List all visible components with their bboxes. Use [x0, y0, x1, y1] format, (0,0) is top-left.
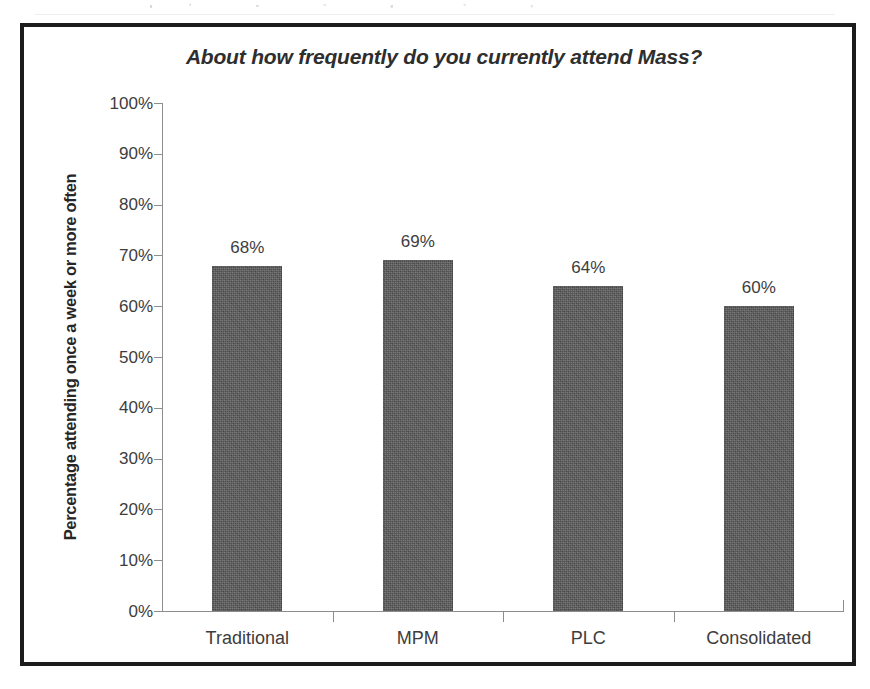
y-tick-label: 80% [119, 195, 153, 215]
bar-value-label-consolidated: 60% [714, 278, 804, 298]
y-tick-label: 60% [119, 297, 153, 317]
y-tick-mark [154, 205, 162, 206]
y-tick-mark [154, 357, 162, 358]
x-axis-category-label-mpm: MPM [328, 628, 508, 649]
y-tick-label: 70% [119, 246, 153, 266]
y-tick-mark [154, 103, 162, 104]
x-axis-category-label-consolidated: Consolidated [669, 628, 849, 649]
bar-consolidated[interactable] [724, 306, 794, 611]
y-tick-label: 10% [119, 551, 153, 571]
y-tick-mark [154, 255, 162, 256]
x-axis-category-label-plc: PLC [498, 628, 678, 649]
x-axis-end-tick [843, 600, 844, 611]
y-tick-mark [154, 611, 162, 612]
bar-value-label-mpm: 69% [373, 232, 463, 252]
y-tick-label: 50% [119, 348, 153, 368]
y-axis-tick-90: 90% [162, 154, 163, 155]
y-axis-title-container: Percentage attending once a week or more… [42, 107, 98, 607]
x-axis-separator-tick [503, 611, 504, 622]
x-axis-separator-tick [333, 611, 334, 622]
y-tick-mark [154, 408, 162, 409]
y-tick-label: 90% [119, 144, 153, 164]
y-axis-title: Percentage attending once a week or more… [59, 111, 81, 603]
bar-value-label-plc: 64% [543, 258, 633, 278]
chart-title: About how frequently do you currently at… [164, 45, 724, 69]
y-axis-tick-30: 30% [162, 459, 163, 460]
y-axis-tick-0: 0% [162, 611, 163, 612]
y-axis-tick-20: 20% [162, 509, 163, 510]
plot-area: 100% 90% 80% 70% 60% 50% 40% 30% [162, 103, 844, 611]
y-tick-label: 20% [119, 500, 153, 520]
y-axis-tick-80: 80% [162, 205, 163, 206]
y-tick-mark [154, 306, 162, 307]
y-tick-mark [154, 509, 162, 510]
y-tick-label: 40% [119, 398, 153, 418]
y-tick-label: 100% [110, 94, 153, 114]
y-axis-tick-60: 60% [162, 306, 163, 307]
y-axis-tick-100: 100% [162, 103, 163, 104]
y-tick-label: 0% [128, 602, 153, 622]
y-axis-tick-70: 70% [162, 255, 163, 256]
bar-plc[interactable] [553, 286, 623, 611]
y-axis-tick-10: 10% [162, 560, 163, 561]
x-axis-separator-tick [674, 611, 675, 622]
bar-value-label-traditional: 68% [202, 238, 292, 258]
bar-traditional[interactable] [212, 266, 282, 611]
chart-frame: About how frequently do you currently at… [20, 23, 856, 666]
bar-mpm[interactable] [383, 260, 453, 611]
y-tick-label: 30% [119, 449, 153, 469]
scan-artifact [95, 1, 655, 10]
y-tick-mark [154, 154, 162, 155]
y-tick-mark [154, 560, 162, 561]
y-tick-mark [154, 459, 162, 460]
x-axis-category-label-traditional: Traditional [157, 628, 337, 649]
y-axis-tick-40: 40% [162, 408, 163, 409]
y-axis-tick-50: 50% [162, 357, 163, 358]
